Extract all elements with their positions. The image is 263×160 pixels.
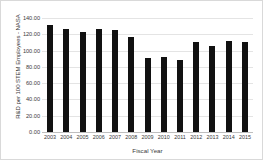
bar-slot xyxy=(123,18,139,132)
bar xyxy=(80,32,86,132)
bar-slot xyxy=(156,18,172,132)
bar-slot xyxy=(107,18,123,132)
bar-series xyxy=(42,18,253,132)
x-tick-label: 2011 xyxy=(172,134,188,144)
x-tick-label: 2004 xyxy=(58,134,74,144)
x-axis-line xyxy=(42,132,253,133)
x-tick-label: 2005 xyxy=(74,134,90,144)
bar-slot xyxy=(188,18,204,132)
bar-slot xyxy=(172,18,188,132)
bar-chart-figure: R&D per 100 STEM Employees - NASA 140.00… xyxy=(0,0,263,160)
bar-slot xyxy=(204,18,220,132)
y-tick-label: 40.00 xyxy=(16,96,40,102)
bar-slot xyxy=(139,18,155,132)
x-tick-label: 2003 xyxy=(42,134,58,144)
x-tick-label: 2014 xyxy=(221,134,237,144)
x-tick-label: 2015 xyxy=(237,134,253,144)
x-tick-label: 2007 xyxy=(107,134,123,144)
bar-slot xyxy=(221,18,237,132)
x-tick-label: 2013 xyxy=(204,134,220,144)
bar-slot xyxy=(237,18,253,132)
bar xyxy=(112,30,118,132)
bar xyxy=(242,42,248,132)
y-tick-label: 80.00 xyxy=(16,64,40,70)
bar xyxy=(96,29,102,132)
y-tick-label: 20.00 xyxy=(16,113,40,119)
y-tick-label: 100.00 xyxy=(16,48,40,54)
bar-slot xyxy=(58,18,74,132)
bar-slot xyxy=(91,18,107,132)
x-tick-label: 2008 xyxy=(123,134,139,144)
y-tick-label: 140.00 xyxy=(16,15,40,21)
x-tick-label: 2012 xyxy=(188,134,204,144)
x-tick-label: 2009 xyxy=(139,134,155,144)
bar-slot xyxy=(42,18,58,132)
x-tick-label: 2006 xyxy=(91,134,107,144)
x-tick-label: 2010 xyxy=(156,134,172,144)
bar xyxy=(128,37,134,132)
y-tick-label: 60.00 xyxy=(16,80,40,86)
bar xyxy=(226,41,232,132)
bar xyxy=(209,46,215,132)
bar xyxy=(177,60,183,132)
y-axis-tick-labels: 140.00120.00100.0080.0060.0040.0020.000.… xyxy=(17,18,41,132)
y-tick-label: 0.00 xyxy=(16,129,40,135)
bar-slot xyxy=(74,18,90,132)
bar xyxy=(63,29,69,132)
bar xyxy=(47,25,53,132)
x-axis-title: Fiscal Year xyxy=(42,147,253,154)
bar xyxy=(161,57,167,132)
bar xyxy=(193,42,199,132)
bar xyxy=(145,58,151,132)
plot-area xyxy=(42,18,253,132)
y-tick-label: 120.00 xyxy=(16,31,40,37)
x-axis-tick-labels: 2003200420052006200720082009201020112012… xyxy=(42,134,253,144)
